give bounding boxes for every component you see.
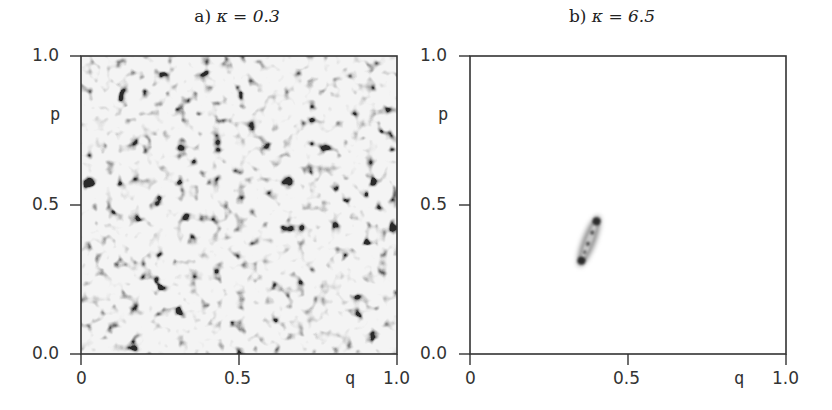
panel-b-plot [0, 0, 832, 410]
panel-b-ytick-label-0: 0.0 [420, 343, 447, 363]
panel-b-xtick-label-0: 0 [465, 368, 476, 388]
panel-b-xlabel: q [734, 368, 744, 388]
panel-b-frame [470, 56, 786, 354]
panel-b-ylabel: p [438, 104, 448, 124]
panel-b: b) κ = 6.5 1.0 0.5 0.0 p 0 0.5 1 [0, 0, 832, 410]
panel-b-localized-density [573, 213, 604, 268]
panel-b-xtick-label-05: 0.5 [613, 368, 640, 388]
panel-b-ytick-label-1: 1.0 [420, 45, 447, 65]
panel-b-ytick-label-05: 0.5 [420, 194, 447, 214]
panel-b-xtick-label-1: 1.0 [772, 368, 799, 388]
